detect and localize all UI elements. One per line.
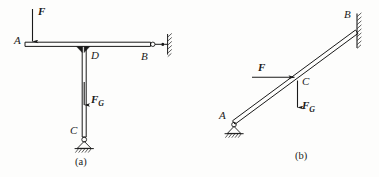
label-point-A-b: A	[219, 110, 226, 121]
label-force-FG-b: FG	[302, 100, 315, 114]
support-pin-A-b	[225, 122, 244, 137]
label-force-F-b: F	[258, 62, 265, 73]
label-point-C-b: C	[302, 76, 309, 87]
beam-AB	[25, 42, 151, 46]
caption-panel-a: (a)	[75, 157, 87, 168]
label-force-FG-a-sub: G	[98, 99, 104, 108]
support-pin-C-a	[75, 137, 94, 152]
label-force-F-a: F	[38, 6, 45, 17]
label-point-A-a: A	[14, 35, 21, 46]
figure-vector-canvas	[0, 0, 379, 177]
label-force-FG-a: FG	[91, 94, 104, 108]
member-AB-inclined	[233, 30, 359, 124]
mechanics-figure: F A D B FG C (a) B F C FG A (b)	[0, 0, 379, 177]
label-point-C-a: C	[70, 125, 77, 136]
panel-a-graphics	[25, 9, 172, 153]
label-force-FG-b-sub: G	[309, 105, 315, 114]
caption-panel-b: (b)	[295, 151, 307, 162]
wall-hatched-B-b	[357, 13, 361, 49]
joint-D-gussets	[77, 47, 90, 53]
label-point-B-b: B	[344, 9, 351, 20]
label-point-D-a: D	[91, 50, 99, 61]
panel-b-graphics	[225, 13, 362, 138]
label-point-B-a: B	[141, 51, 148, 62]
support-link-B-a	[151, 33, 172, 56]
